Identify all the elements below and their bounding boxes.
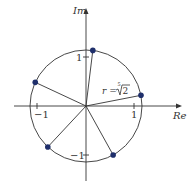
x-tick-label-neg1: −1	[34, 109, 49, 120]
root-point	[90, 48, 96, 54]
root-radius-line	[48, 106, 86, 147]
x-tick-label-1: 1	[131, 109, 137, 120]
root-point	[138, 93, 144, 99]
root-point	[110, 152, 116, 158]
root-radius-line	[35, 82, 86, 106]
root-radius-line	[86, 95, 141, 106]
radius-label-prefix: r =	[102, 86, 120, 96]
real-axis-label: Re	[172, 110, 187, 121]
complex-plane-diagram: Im Re −1 1 1 −1 r = 5 2	[0, 0, 194, 189]
root-radius-line	[86, 106, 113, 155]
root-point	[32, 80, 38, 86]
radius-root-index: 5	[118, 81, 121, 87]
y-tick-label-1: 1	[76, 52, 82, 63]
root-point	[45, 144, 51, 150]
y-tick-label-neg1: −1	[70, 150, 85, 161]
radius-radicand: 2	[123, 86, 129, 96]
imaginary-axis-label: Im	[72, 5, 86, 16]
root-radius-line	[86, 50, 93, 106]
radius-label: r = 5 2	[102, 81, 130, 96]
real-axis-arrow-icon	[176, 104, 182, 109]
